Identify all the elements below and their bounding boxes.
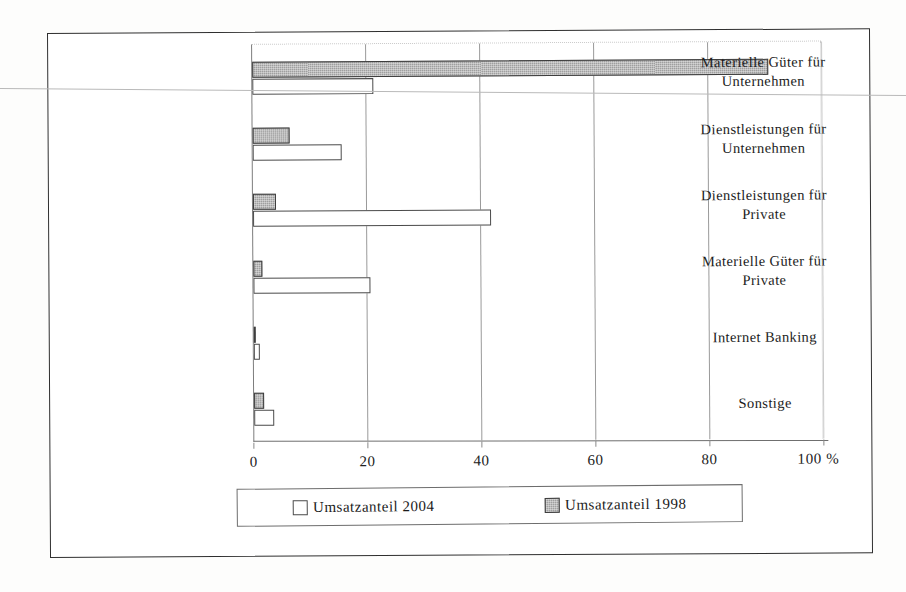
tick-label-0: 0 — [250, 454, 258, 471]
tick-mark-40 — [481, 441, 482, 447]
category-label-line: Private — [666, 270, 862, 290]
legend-label-2004: Umsatzanteil 2004 — [313, 497, 435, 515]
category-label: Sonstige — [667, 394, 863, 414]
chart-legend: Umsatzanteil 2004 Umsatzanteil 1998 — [237, 484, 743, 527]
tick-label-20: 20 — [359, 453, 375, 470]
bar-2004 — [253, 210, 491, 227]
tick-mark-20 — [367, 442, 368, 448]
bar-2004 — [254, 344, 260, 360]
bar-2004 — [253, 144, 343, 161]
tick-label-60: 60 — [587, 452, 603, 469]
category-label-line: Dienstleistungen für — [666, 185, 862, 205]
category-label: Dienstleistungen fürPrivate — [666, 185, 862, 224]
bar-2004 — [252, 78, 373, 95]
category-label-line: Private — [666, 204, 862, 224]
bars-layer — [251, 42, 820, 45]
category-label-line: Unternehmen — [665, 71, 861, 91]
bar-1998 — [253, 194, 276, 210]
category-label-line: Dienstleistungen für — [666, 119, 862, 139]
category-label: Internet Banking — [667, 327, 863, 347]
category-label: Dienstleistungen fürUnternehmen — [666, 119, 862, 158]
chart-frame: Materielle Güter fürUnternehmenDienstlei… — [47, 28, 873, 558]
tick-mark-0 — [253, 443, 254, 449]
legend-label-1998: Umsatzanteil 1998 — [565, 495, 687, 513]
legend-swatch-white-icon — [293, 500, 308, 515]
tick-label-80: 80 — [701, 451, 717, 468]
category-label-line: Materielle Güter für — [665, 52, 861, 72]
legend-item-2004: Umsatzanteil 2004 — [293, 497, 435, 515]
legend-item-1998: Umsatzanteil 1998 — [545, 495, 687, 513]
tick-mark-80 — [709, 440, 710, 446]
bar-1998 — [254, 393, 264, 409]
bar-1998 — [253, 128, 290, 144]
bar-1998 — [253, 260, 262, 276]
category-label-line: Internet Banking — [667, 327, 863, 347]
legend-swatch-gray-icon — [545, 497, 560, 512]
tick-mark-100 — [823, 440, 824, 446]
category-label-line: Materielle Güter für — [666, 251, 862, 271]
category-label: Materielle Güter fürUnternehmen — [665, 52, 861, 91]
bar-2004 — [254, 410, 274, 426]
category-label-line: Unternehmen — [666, 138, 862, 158]
category-label: Materielle Güter fürPrivate — [666, 251, 862, 290]
tick-label-100: 100 % — [798, 450, 840, 467]
plot-area — [251, 41, 823, 442]
bar-1998 — [254, 327, 256, 343]
bar-2004 — [253, 277, 370, 294]
tick-label-40: 40 — [473, 452, 489, 469]
tick-mark-60 — [595, 441, 596, 447]
category-label-line: Sonstige — [667, 394, 863, 414]
